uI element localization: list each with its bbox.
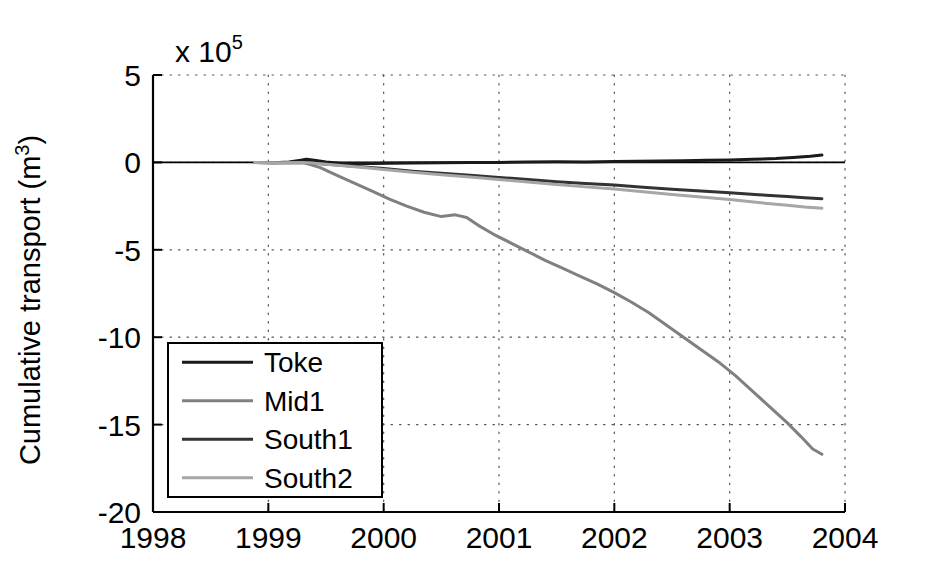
legend-label-south1: South1 xyxy=(264,424,353,455)
cumulative-transport-line-chart: 1998199920002001200220032004 50-5-10-15-… xyxy=(0,0,925,579)
y-tick-label: 0 xyxy=(124,146,141,179)
x-tick-label: 2004 xyxy=(812,521,879,554)
legend-label-mid1: Mid1 xyxy=(264,386,325,417)
x-tick-label: 2001 xyxy=(466,521,533,554)
y-tick-label: -10 xyxy=(98,321,141,354)
figure-container: 1998199920002001200220032004 50-5-10-15-… xyxy=(0,0,925,579)
x-tick-label: 1999 xyxy=(235,521,302,554)
chart-legend: TokeMid1South1South2 xyxy=(168,343,382,497)
legend-label-toke: Toke xyxy=(264,347,323,378)
y-tick-label: -5 xyxy=(114,234,141,267)
legend-label-south2: South2 xyxy=(264,463,353,494)
x-tick-label: 2002 xyxy=(581,521,648,554)
x-tick-label: 2000 xyxy=(350,521,417,554)
y-tick-label: -20 xyxy=(98,496,141,529)
x-tick-label: 2003 xyxy=(696,521,763,554)
y-axis-title: Cumulative transport (m3) xyxy=(11,135,46,465)
y-tick-label: -15 xyxy=(98,409,141,442)
y-tick-label: 5 xyxy=(124,59,141,92)
